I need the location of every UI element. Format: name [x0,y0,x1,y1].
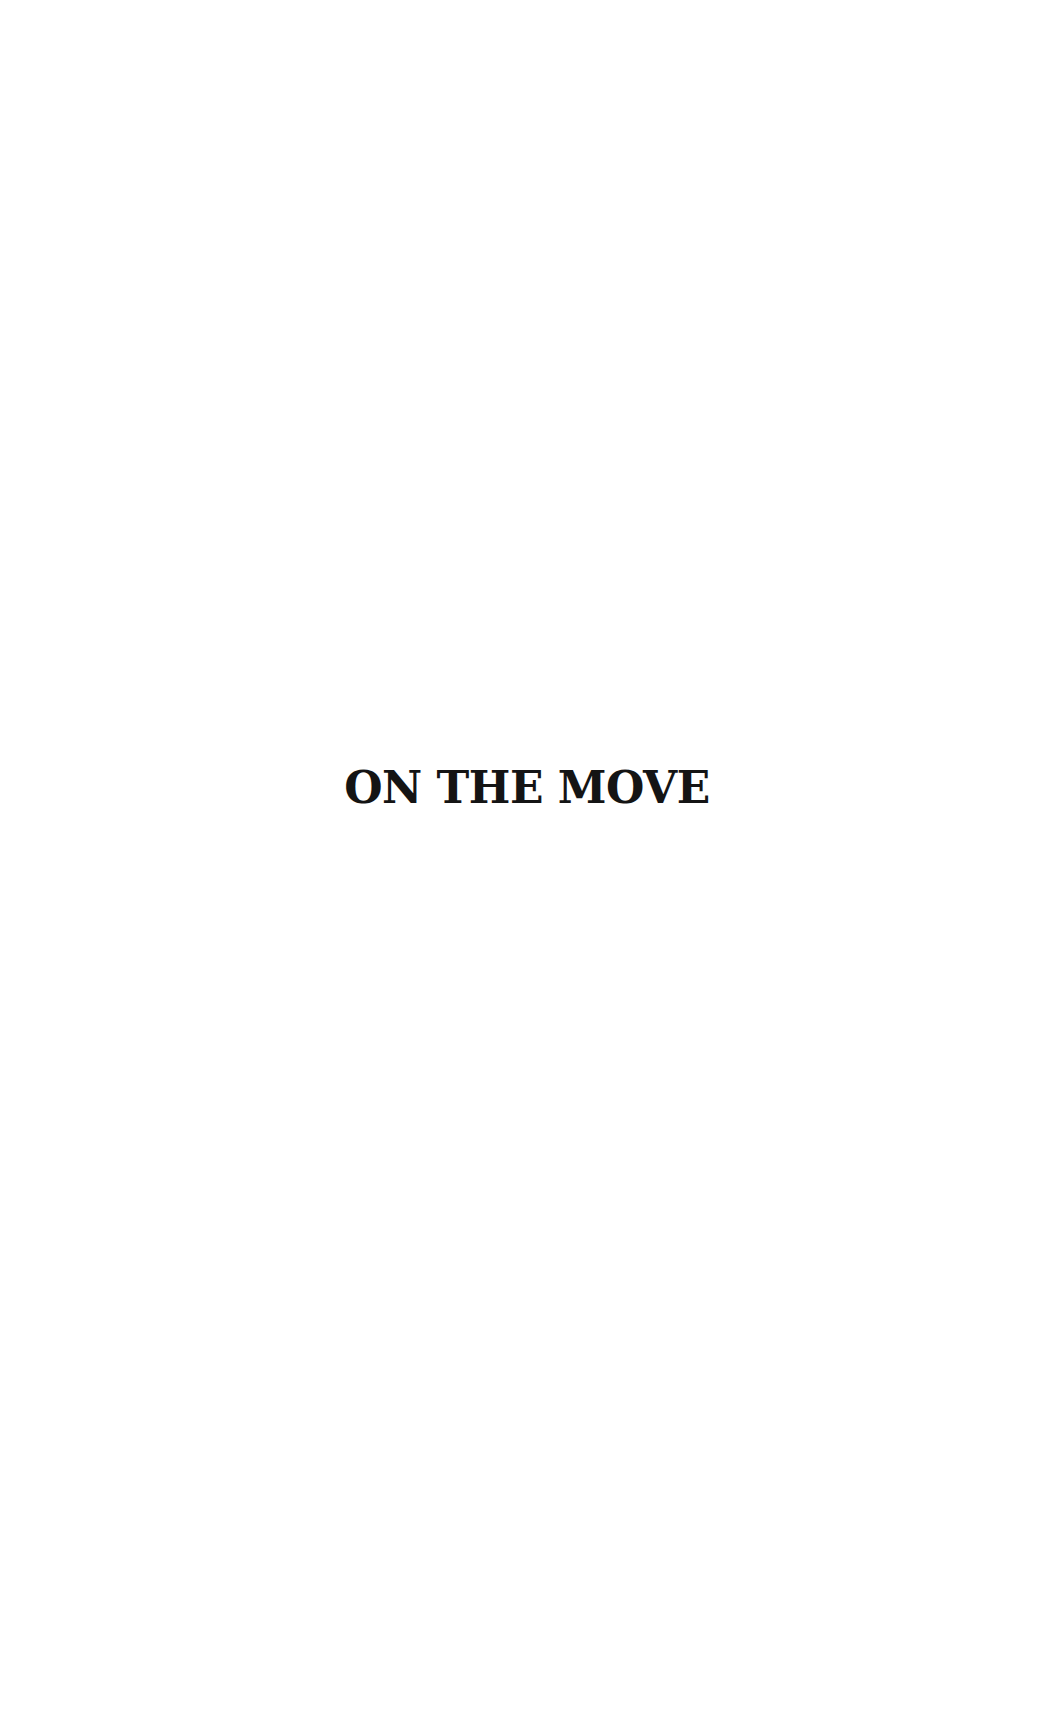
page-title: ON THE MOVE [0,762,1054,814]
book-page: ON THE MOVE [0,0,1054,1726]
